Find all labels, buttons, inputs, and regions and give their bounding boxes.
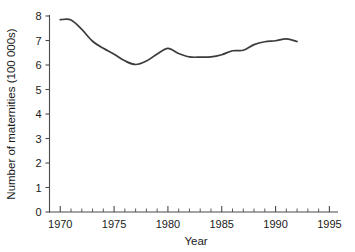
x-tick-label: 1985 [209, 218, 233, 230]
x-tick-label: 1990 [263, 218, 287, 230]
x-tick-label: 1975 [102, 218, 126, 230]
y-tick-label: 2 [35, 157, 41, 169]
y-tick-label: 7 [35, 35, 41, 47]
y-tick-label: 4 [35, 108, 41, 120]
y-tick-label: 3 [35, 133, 41, 145]
x-axis-major-ticks [60, 206, 329, 212]
x-tick-label: 1980 [156, 218, 180, 230]
y-axis-group: 012345678 [35, 10, 49, 218]
x-axis-title: Year [184, 235, 207, 247]
y-axis-tick-labels: 012345678 [35, 10, 41, 218]
y-tick-label: 6 [35, 59, 41, 71]
y-tick-label: 5 [35, 84, 41, 96]
x-axis-group: 197019751980198519901995 [48, 206, 342, 230]
y-tick-label: 0 [35, 206, 41, 218]
x-tick-label: 1970 [48, 218, 72, 230]
x-tick-label: 1995 [317, 218, 341, 230]
y-tick-label: 8 [35, 10, 41, 22]
data-series-line [60, 19, 297, 64]
y-axis-ticks [46, 16, 50, 212]
chart-page: 012345678 197019751980198519901995 Numbe… [0, 0, 355, 252]
line-chart: 012345678 197019751980198519901995 Numbe… [0, 0, 355, 252]
y-axis-title: Number of maternities (100 000s) [5, 28, 17, 199]
y-tick-label: 1 [35, 182, 41, 194]
x-axis-tick-labels: 197019751980198519901995 [48, 218, 342, 230]
